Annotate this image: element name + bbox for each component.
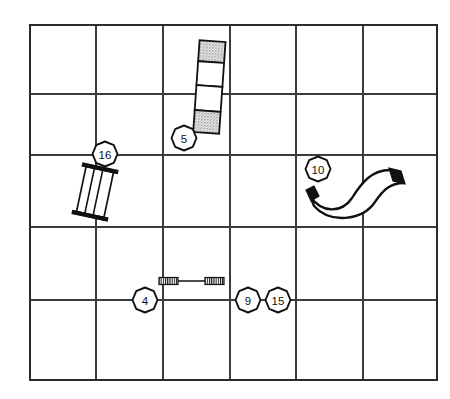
hose-cuff-left: [306, 186, 319, 201]
diagram-canvas: 5 16 10 4 9 15: [0, 0, 450, 399]
callout-label-4: 4: [142, 295, 149, 307]
callout-16[interactable]: 16: [93, 142, 118, 167]
callout-label-15: 15: [272, 295, 285, 307]
callout-10[interactable]: 10: [306, 157, 331, 182]
callout-label-5: 5: [181, 133, 187, 145]
grid-vertical-lines: [96, 25, 363, 380]
tie-rod-collar-right: [205, 278, 224, 285]
tie-rod-collar-left: [159, 278, 178, 285]
bar-segment-upper-mid: [196, 61, 224, 87]
part-threaded-tie-rod: [159, 278, 224, 285]
callout-label-10: 10: [312, 164, 325, 176]
part-segmented-bar: [193, 40, 225, 134]
callout-label-16: 16: [99, 149, 112, 161]
callout-5[interactable]: 5: [172, 126, 197, 151]
bar-segment-bottom: [193, 110, 220, 134]
bar-segment-lower-mid: [195, 85, 223, 112]
callout-4[interactable]: 4: [133, 288, 158, 313]
callout-15[interactable]: 15: [266, 288, 291, 313]
bar-segment-top: [198, 40, 225, 63]
part-tilted-grate: [72, 163, 118, 221]
diagram-svg: 5 16 10 4 9 15: [0, 0, 450, 399]
callout-9[interactable]: 9: [236, 288, 261, 313]
callout-label-9: 9: [245, 295, 251, 307]
